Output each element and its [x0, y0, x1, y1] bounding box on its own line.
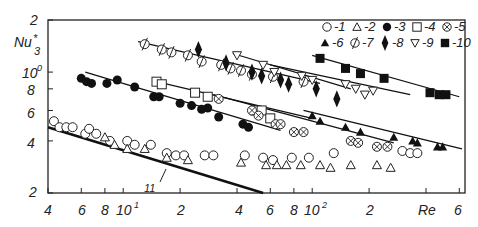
- fit-line-6: [304, 110, 462, 148]
- x-tick-40: 4: [235, 202, 243, 218]
- svg-text:-4: -4: [424, 19, 436, 34]
- fit-line-11: [48, 127, 263, 193]
- y-axis-labels: 2 Nu * 3 10 0 8 6 4 2: [14, 12, 42, 200]
- x-tick-100: 10: [304, 202, 320, 218]
- legend-item-8: -8: [382, 35, 405, 51]
- legend-item-3: -3: [383, 19, 407, 34]
- y-tick-2-top: 2: [29, 12, 38, 28]
- x-tick-6: 6: [78, 202, 86, 218]
- x-tick-20: 2: [176, 202, 185, 218]
- x-tick-10-exp: 1: [134, 200, 139, 210]
- svg-text:-7: -7: [362, 35, 374, 50]
- legend-item-6: -6: [321, 35, 345, 50]
- y-tick-10: 10: [22, 65, 38, 81]
- y-tick-6: 6: [27, 105, 35, 121]
- svg-text:-9: -9: [422, 35, 434, 50]
- legend: -1-2-3-4-5-6-7-8-9-10: [321, 19, 472, 51]
- svg-text:-10: -10: [452, 35, 472, 50]
- y-tick-10-exp: 0: [37, 63, 42, 73]
- legend-item-2: -2: [353, 19, 377, 34]
- curve-11-leader: [160, 169, 166, 182]
- legend-item-7: -7: [351, 35, 375, 50]
- x-tick-4: 4: [44, 202, 52, 218]
- y-axis-label-star: *: [33, 32, 38, 44]
- fit-line-9: [270, 65, 410, 95]
- svg-text:-2: -2: [364, 19, 376, 34]
- y-axis-label-sub: 3: [34, 45, 41, 57]
- x-tick-8: 8: [101, 202, 109, 218]
- svg-text:-8: -8: [392, 35, 404, 50]
- y-axis-label: Nu: [14, 34, 32, 50]
- chart: 2 Nu * 3 10 0 8 6 4 2 4 6 8 10 1 2 4 6 8…: [0, 0, 478, 227]
- x-axis-labels: 4 6 8 10 1 2 4 6 8 10 2 2 Re 6: [44, 200, 462, 218]
- x-tick-10: 10: [116, 202, 132, 218]
- legend-item-4: -4: [413, 19, 436, 34]
- y-tick-4: 4: [27, 135, 35, 151]
- legend-item-9: -9: [411, 35, 434, 50]
- x-tick-200: 2: [365, 202, 374, 218]
- legend-item-5: -5: [443, 19, 467, 34]
- x-tick-100-exp: 2: [321, 200, 327, 210]
- svg-text:-3: -3: [394, 19, 406, 34]
- y-tick-8: 8: [27, 82, 35, 98]
- series-10: [316, 54, 451, 99]
- x-axis-label: Re: [418, 202, 436, 218]
- svg-text:-5: -5: [454, 19, 466, 34]
- svg-text:-6: -6: [332, 35, 344, 50]
- legend-item-1: -1: [323, 19, 346, 34]
- x-tick-600: 6: [454, 202, 462, 218]
- x-tick-80: 8: [290, 202, 298, 218]
- legend-item-10: -10: [441, 35, 472, 50]
- y-tick-2: 2: [28, 184, 37, 200]
- curve-11-label: 11: [144, 182, 155, 194]
- x-tick-60: 6: [266, 202, 274, 218]
- svg-text:-1: -1: [334, 19, 346, 34]
